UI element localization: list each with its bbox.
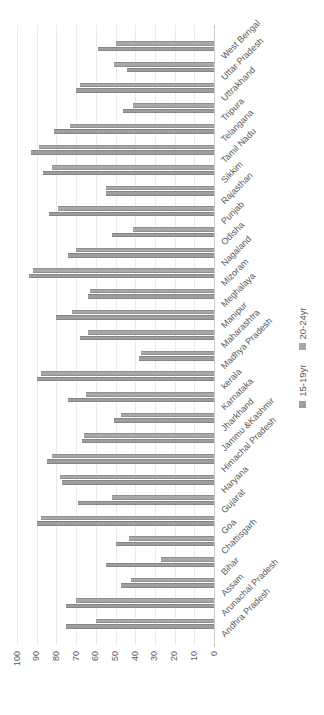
bar-20-24yr-Jammu &Kashmir bbox=[84, 433, 214, 438]
bar-20-24yr-Andhra Pradesh bbox=[96, 619, 214, 624]
bar-15-19yr-Jharkhand bbox=[114, 418, 214, 423]
legend-item-15-19yr: 15-19yr bbox=[297, 365, 308, 408]
bar-20-24yr-Tripura bbox=[133, 103, 214, 108]
bar-20-24yr-Karnataka bbox=[86, 392, 214, 397]
bar-15-19yr-Maharashtra bbox=[80, 336, 214, 341]
bar-15-19yr-Gujarat bbox=[78, 501, 214, 506]
bar-20-24yr-Uttar Pradesh bbox=[114, 62, 214, 67]
bar-15-19yr-Karnataka bbox=[68, 398, 214, 403]
bar-15-19yr-Haryana bbox=[62, 480, 214, 485]
y-tick-label-40: 40 bbox=[130, 651, 141, 679]
legend-label: 20-24yr bbox=[297, 307, 308, 339]
legend-swatch-icon bbox=[299, 344, 306, 351]
bar-15-19yr-Manipur bbox=[56, 315, 214, 320]
bar-chart-plot-area: 0102030405060708090100 Andhra PradeshAru… bbox=[0, 0, 324, 715]
bar-15-19yr-Telangana bbox=[54, 130, 214, 135]
gridline-90 bbox=[37, 25, 38, 645]
x-axis-line bbox=[214, 25, 215, 647]
bar-20-24yr-Manipur bbox=[72, 310, 214, 315]
bar-20-24yr-Odisha bbox=[133, 227, 214, 232]
bar-20-24yr-Gujarat bbox=[112, 495, 214, 500]
y-tick-label-20: 20 bbox=[169, 651, 180, 679]
bar-20-24yr-Nagaland bbox=[76, 248, 214, 253]
gridline-80 bbox=[56, 25, 57, 645]
y-tick-label-90: 90 bbox=[31, 651, 42, 679]
bar-20-24yr-Tamil Nadu bbox=[39, 145, 214, 150]
bar-20-24yr-Mizoram bbox=[33, 268, 214, 273]
y-tick-label-30: 30 bbox=[149, 651, 160, 679]
rotated-chart-stage: 0102030405060708090100 Andhra PradeshAru… bbox=[0, 0, 324, 715]
bar-15-19yr-Jammu &Kashmir bbox=[82, 439, 214, 444]
y-tick-label-80: 80 bbox=[51, 651, 62, 679]
bar-15-19yr-Goa bbox=[37, 521, 214, 526]
bar-15-19yr-Andhra Pradesh bbox=[66, 625, 214, 630]
bar-20-24yr-Telangana bbox=[70, 124, 214, 129]
bar-15-19yr-Meghalaya bbox=[88, 295, 214, 300]
bar-15-19yr-Uttar Pradesh bbox=[127, 68, 214, 73]
y-tick-label-60: 60 bbox=[90, 651, 101, 679]
bar-20-24yr-Uttrakhand bbox=[80, 83, 214, 88]
gridline-100 bbox=[17, 25, 18, 645]
bar-15-19yr-West Bengal bbox=[98, 47, 214, 52]
bar-20-24yr-Himachal Pradesh bbox=[52, 454, 214, 459]
bar-20-24yr-Bihar bbox=[161, 557, 214, 562]
bar-15-19yr-Arunachal Pradesh bbox=[66, 604, 214, 609]
bar-20-24yr-Sikkim bbox=[52, 165, 214, 170]
bar-15-19yr-kerala bbox=[37, 377, 214, 382]
y-tick-label-50: 50 bbox=[110, 651, 121, 679]
bar-15-19yr-Tripura bbox=[123, 109, 214, 114]
bar-20-24yr-Assam bbox=[131, 578, 214, 583]
legend-item-20-24yr: 20-24yr bbox=[297, 307, 308, 350]
bar-15-19yr-Mizoram bbox=[29, 274, 214, 279]
y-tick-label-0: 0 bbox=[209, 651, 220, 679]
bar-20-24yr-Punjab bbox=[58, 207, 214, 212]
y-tick-label-10: 10 bbox=[189, 651, 200, 679]
bar-15-19yr-Assam bbox=[121, 583, 214, 588]
bar-15-19yr-Punjab bbox=[49, 212, 214, 217]
bar-20-24yr-Arunachal Pradesh bbox=[76, 598, 214, 603]
gridline-70 bbox=[76, 25, 77, 645]
bar-20-24yr-kerala bbox=[41, 372, 214, 377]
legend-label: 15-19yr bbox=[297, 365, 308, 397]
legend-swatch-icon bbox=[299, 401, 306, 408]
bar-15-19yr-Nagaland bbox=[68, 253, 214, 258]
bar-20-24yr-Meghalaya bbox=[90, 289, 214, 294]
bar-20-24yr-Rajasthan bbox=[106, 186, 214, 191]
bar-15-19yr-Rajasthan bbox=[106, 191, 214, 196]
bar-20-24yr-Haryana bbox=[60, 475, 214, 480]
bar-20-24yr-Madhya Pradesh bbox=[141, 351, 214, 356]
bar-15-19yr-Bihar bbox=[106, 563, 214, 568]
bar-15-19yr-Odisha bbox=[112, 233, 214, 238]
bar-20-24yr-Maharashtra bbox=[88, 330, 214, 335]
bar-15-19yr-Chattisgarh bbox=[116, 542, 215, 547]
y-tick-label-70: 70 bbox=[71, 651, 82, 679]
bar-15-19yr-Sikkim bbox=[43, 171, 214, 176]
bar-15-19yr-Madhya Pradesh bbox=[139, 356, 214, 361]
bar-20-24yr-West Bengal bbox=[116, 42, 215, 47]
bar-20-24yr-Jharkhand bbox=[121, 413, 214, 418]
bar-20-24yr-Chattisgarh bbox=[129, 537, 214, 542]
bar-15-19yr-Uttrakhand bbox=[76, 88, 214, 93]
bar-20-24yr-Goa bbox=[41, 516, 214, 521]
y-tick-label-100: 100 bbox=[12, 651, 23, 679]
chart-legend: 15-19yr20-24yr bbox=[297, 0, 308, 715]
bar-15-19yr-Tamil Nadu bbox=[31, 150, 214, 155]
bar-15-19yr-Himachal Pradesh bbox=[47, 460, 214, 465]
